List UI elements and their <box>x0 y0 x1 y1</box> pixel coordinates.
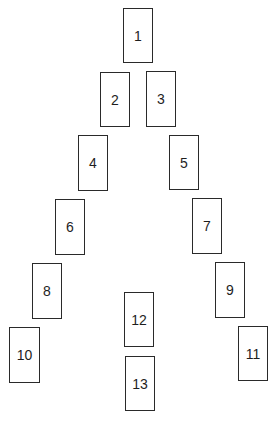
card-position-4: 4 <box>78 135 108 191</box>
card-number: 9 <box>226 283 234 297</box>
card-number: 2 <box>111 93 119 107</box>
card-position-11: 11 <box>238 326 268 381</box>
card-position-9: 9 <box>215 262 245 318</box>
card-number: 11 <box>246 347 261 361</box>
card-number: 13 <box>132 377 148 391</box>
card-position-8: 8 <box>32 263 62 319</box>
card-position-7: 7 <box>192 198 222 254</box>
card-number: 3 <box>157 92 165 106</box>
card-number: 10 <box>17 348 33 362</box>
card-position-10: 10 <box>9 327 40 383</box>
card-position-5: 5 <box>169 135 199 190</box>
card-position-1: 1 <box>123 8 153 63</box>
card-position-13: 13 <box>125 356 155 411</box>
card-number: 12 <box>131 313 147 327</box>
card-number: 1 <box>134 29 142 43</box>
card-number: 7 <box>203 219 211 233</box>
card-number: 8 <box>43 284 51 298</box>
card-number: 4 <box>89 156 97 170</box>
card-position-2: 2 <box>100 72 130 127</box>
card-position-12: 12 <box>124 292 154 347</box>
card-position-6: 6 <box>55 199 85 255</box>
card-position-3: 3 <box>146 71 176 127</box>
card-number: 6 <box>66 220 74 234</box>
card-number: 5 <box>180 156 188 170</box>
